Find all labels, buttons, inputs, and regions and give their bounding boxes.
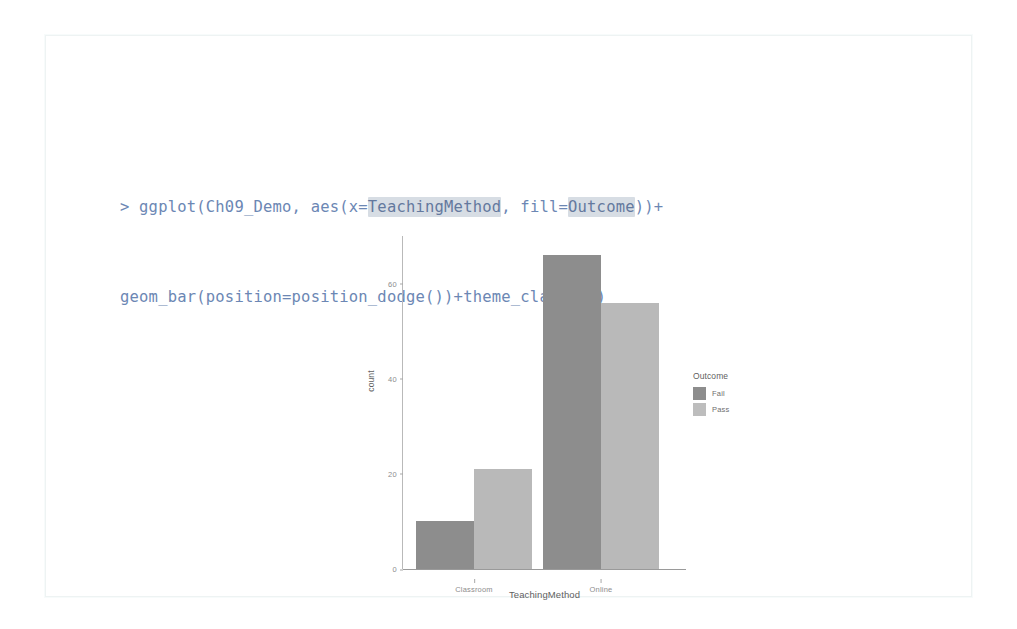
bar-online-pass [601,303,659,569]
y-axis-title: count [366,370,376,391]
legend-item-fail: Fail [693,387,783,400]
y-tick-0: 0 [393,565,403,574]
legend-item-pass: Pass [693,403,783,416]
bar-classroom-fail [416,521,474,569]
legend-swatch-fail-icon [693,387,706,400]
code-highlight-teachingmethod: TeachingMethod [368,197,501,217]
plot-panel: 0 20 40 60 Classroom Online [403,236,679,569]
code-line-1-suffix: ))+ [635,198,664,216]
document-page-frame: > ggplot(Ch09_Demo, aes(x=TeachingMethod… [45,35,972,597]
code-line-1-prefix: > ggplot(Ch09_Demo, aes(x= [120,198,368,216]
x-axis-line [403,569,686,570]
legend-swatch-pass-icon [693,403,706,416]
y-tick-60: 60 [388,279,403,288]
code-line-1-mid: , fill= [501,198,568,216]
code-line-1: > ggplot(Ch09_Demo, aes(x=TeachingMethod… [120,192,820,222]
code-highlight-outcome: Outcome [568,197,635,217]
y-tick-20: 20 [388,469,403,478]
legend-label-fail: Fail [712,389,725,398]
x-axis-title: TeachingMethod [403,589,686,600]
page-root: > ggplot(Ch09_Demo, aes(x=TeachingMethod… [0,0,1017,629]
legend-label-pass: Pass [712,405,729,414]
ggplot-figure: 0 20 40 60 Classroom Online TeachingMeth… [346,226,806,616]
legend-title: Outcome [693,371,783,381]
bar-classroom-pass [474,469,532,569]
chart-legend: Outcome Fail Pass [693,371,783,419]
bar-online-fail [543,255,601,569]
y-tick-40: 40 [388,374,403,383]
